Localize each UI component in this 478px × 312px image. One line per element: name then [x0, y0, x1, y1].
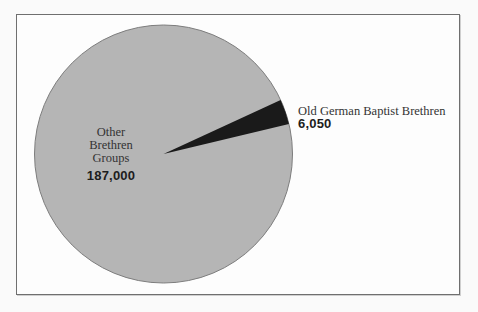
other-group-label-line3: Groups [51, 152, 171, 165]
ogbb-value: 6,050 [298, 118, 446, 130]
chart-frame: Other Brethren Groups 187,000 Old German… [16, 14, 460, 295]
ogbb-label: Old German Baptist Brethren 6,050 [298, 105, 446, 130]
other-group-label: Other Brethren Groups 187,000 [51, 126, 171, 182]
other-group-value: 187,000 [51, 169, 171, 182]
